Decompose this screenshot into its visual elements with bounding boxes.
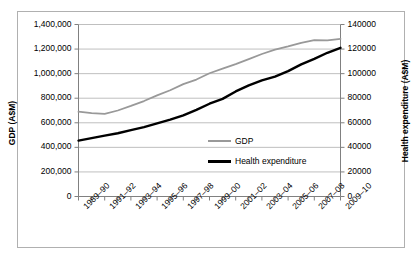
left-tick-label: 400,000 — [0, 141, 72, 151]
right-tick-label: 100000 — [348, 68, 376, 78]
right-axis-title: Health expenditure (A$M) — [400, 46, 410, 176]
legend-label-gdp: GDP — [235, 136, 253, 146]
right-tick-label: 20000 — [348, 166, 372, 176]
chart-figure: GDP (A$M) Health expenditure (A$M) 0200,… — [0, 0, 420, 261]
left-tick-label: 600,000 — [0, 117, 72, 127]
right-tick-label: 40000 — [348, 141, 372, 151]
right-tick-label: 120000 — [348, 43, 376, 53]
left-tick-label: 0 — [0, 191, 72, 201]
chart-plot-area — [0, 0, 420, 261]
legend-label-health-expenditure: Health expenditure — [235, 156, 306, 166]
legend-swatch-health-expenditure — [208, 160, 231, 163]
left-tick-label: 1,000,000 — [0, 68, 72, 78]
right-tick-label: 80000 — [348, 92, 372, 102]
right-tick-label: 60000 — [348, 117, 372, 127]
left-tick-label: 200,000 — [0, 166, 72, 176]
right-tick-label: 140000 — [348, 19, 376, 29]
left-tick-label: 800,000 — [0, 92, 72, 102]
series-line-health-expenditure — [79, 48, 341, 141]
left-tick-label: 1,400,000 — [0, 19, 72, 29]
legend-swatch-gdp — [208, 140, 231, 142]
left-tick-label: 1,200,000 — [0, 43, 72, 53]
